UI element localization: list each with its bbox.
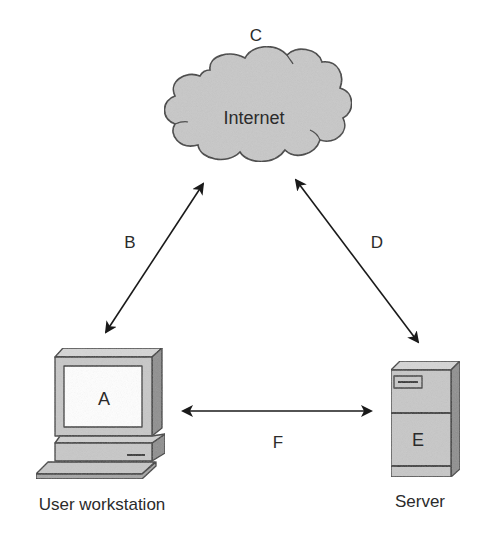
internet-letter-label: C [250,26,262,46]
internet-label: Internet [223,108,284,129]
server-caption: Server [395,492,445,512]
link-d-label: D [371,233,383,253]
workstation-letter-label: A [98,389,110,410]
link-b-label: B [124,233,135,253]
link-f-label: F [273,433,283,453]
link-b-arrow [106,184,203,332]
server-icon [391,361,460,477]
network-diagram [0,0,485,541]
server-letter-label: E [412,430,424,451]
link-d-arrow [296,180,418,342]
workstation-caption: User workstation [39,495,166,515]
internet-cloud-icon [164,47,351,162]
workstation-icon [36,348,165,479]
